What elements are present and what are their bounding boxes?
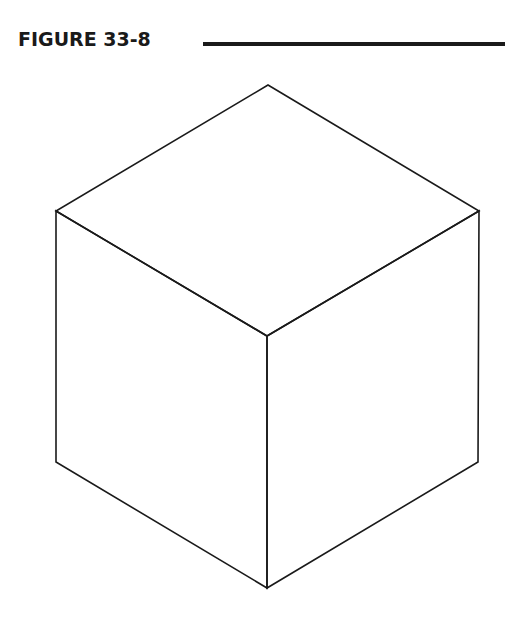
cube-diagram	[0, 0, 520, 618]
cube-top-face	[56, 85, 479, 336]
cube-left-face	[56, 211, 267, 588]
cube-right-face	[267, 211, 479, 588]
